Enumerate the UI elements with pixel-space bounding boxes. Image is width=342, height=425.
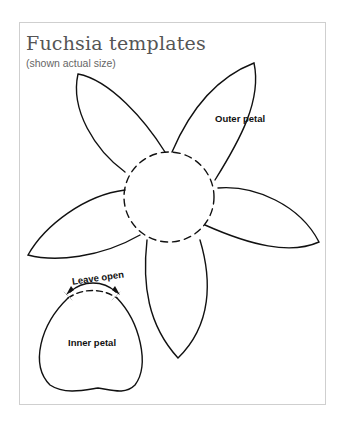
center-glue-circle	[124, 152, 214, 242]
inner-petal-open-edge	[68, 291, 117, 299]
outer-petal-label: Outer petal	[215, 113, 265, 124]
templates-illustration: Outer petal Inner petal Leave open	[0, 0, 342, 425]
inner-petal-label: Inner petal	[68, 337, 116, 348]
outer-petal-bottom	[145, 240, 207, 358]
outer-petal-right	[205, 188, 319, 248]
arrowhead-left-icon	[66, 286, 74, 295]
outer-petal-top-left	[76, 74, 165, 172]
arrowhead-right-icon	[112, 286, 120, 295]
outer-petal-left	[28, 190, 140, 258]
